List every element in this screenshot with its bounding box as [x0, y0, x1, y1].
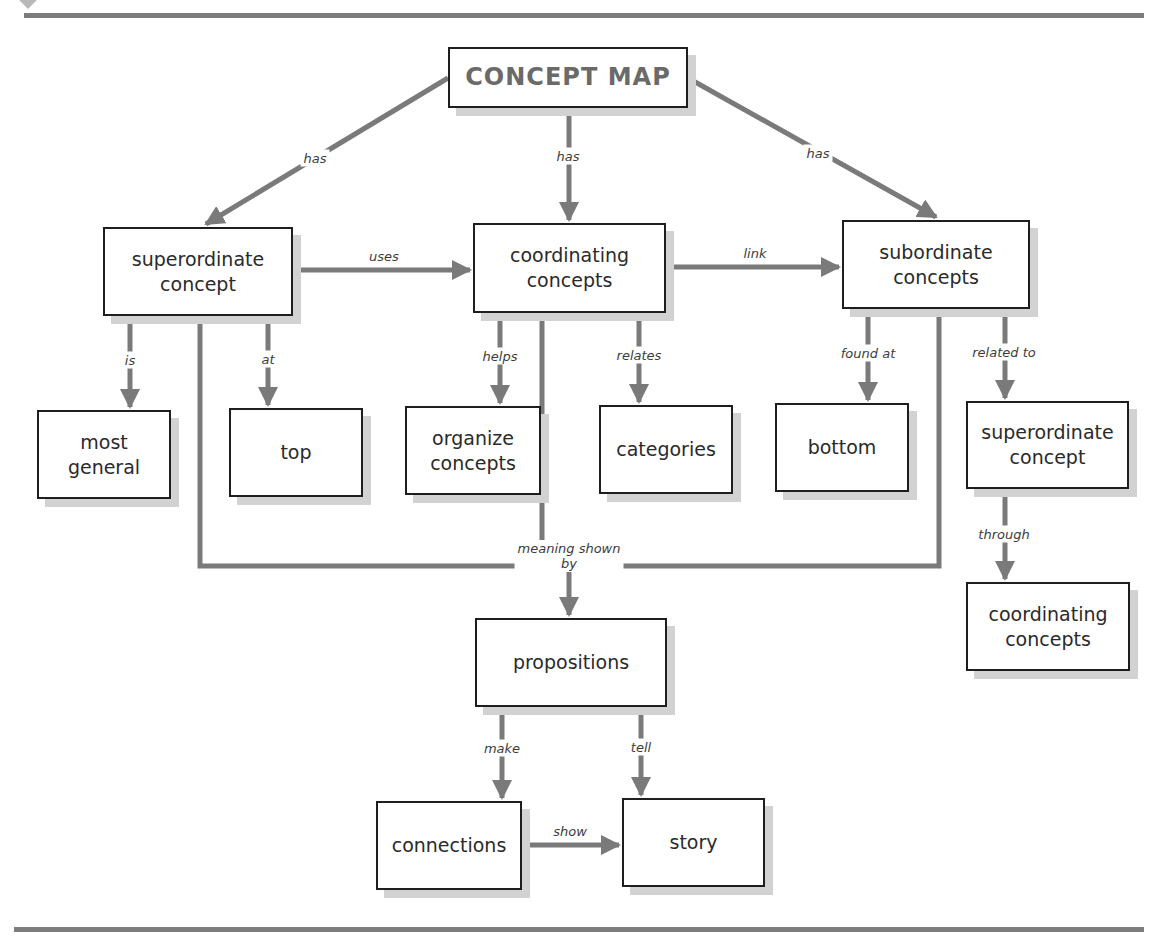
- node-most-general: most general: [37, 410, 171, 499]
- node-label: categories: [616, 437, 716, 462]
- node-superordinate-concept-right: superordinate concept: [966, 401, 1129, 489]
- node-label: most general: [68, 430, 140, 480]
- node-concept-map: CONCEPT MAP: [448, 47, 688, 108]
- node-label: CONCEPT MAP: [465, 65, 670, 90]
- node-organize-concepts: organize concepts: [405, 406, 541, 495]
- node-propositions: propositions: [475, 618, 667, 707]
- node-label: coordinating concepts: [510, 243, 629, 293]
- link-label-has-center: has: [554, 148, 583, 165]
- node-superordinate-concept: superordinate concept: [103, 227, 293, 316]
- link-label-uses: uses: [366, 248, 402, 265]
- link-label-show: show: [550, 823, 590, 840]
- node-categories: categories: [599, 405, 733, 494]
- node-label: top: [280, 440, 311, 465]
- link-label-at: at: [258, 351, 277, 368]
- node-label: organize concepts: [430, 426, 516, 476]
- node-label: subordinate concepts: [879, 240, 992, 290]
- link-label-is: is: [122, 352, 138, 369]
- node-bottom: bottom: [775, 403, 909, 492]
- node-label: bottom: [808, 435, 877, 460]
- link-label-make: make: [481, 740, 523, 757]
- node-connections: connections: [376, 801, 522, 890]
- link-label-related-to: related to: [969, 344, 1038, 361]
- bottom-rule: [14, 927, 1144, 932]
- link-label-has-right: has: [804, 145, 833, 162]
- node-coordinating-concepts-right: coordinating concepts: [966, 582, 1130, 671]
- link-label-tell: tell: [628, 739, 654, 756]
- node-top: top: [229, 408, 363, 497]
- node-label: coordinating concepts: [988, 602, 1107, 652]
- node-label: superordinate concept: [981, 420, 1113, 470]
- link-label-link: link: [741, 245, 770, 262]
- node-coordinating-concepts: coordinating concepts: [473, 223, 666, 313]
- link-label-relates: relates: [614, 347, 665, 364]
- link-label-helps: helps: [480, 348, 521, 365]
- node-label: propositions: [513, 650, 629, 675]
- link-label-found-at: found at: [838, 345, 898, 362]
- node-subordinate-concepts: subordinate concepts: [842, 220, 1030, 309]
- node-label: superordinate concept: [132, 247, 264, 297]
- node-story: story: [622, 798, 765, 887]
- link-label-meaning-shown-by: meaning shown by: [515, 540, 624, 572]
- node-label: connections: [392, 833, 507, 858]
- node-label: story: [669, 830, 717, 855]
- link-label-has-left: has: [301, 150, 330, 167]
- link-label-through: through: [975, 526, 1032, 543]
